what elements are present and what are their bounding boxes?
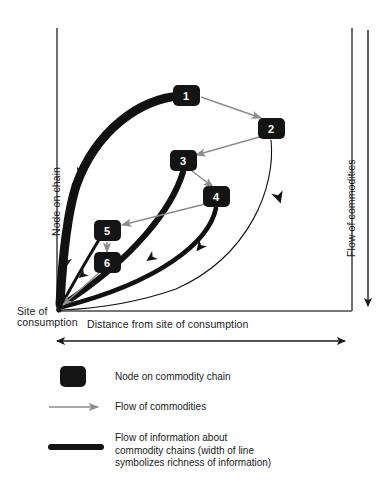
node-2-label: 2 [268,123,274,135]
node-3[interactable]: 3 [170,150,197,171]
flow-arrowhead-2 [271,190,286,205]
node-4[interactable]: 4 [203,186,230,207]
right-axis-label: Flow of commodities [345,159,357,257]
node-4-label: 4 [213,191,220,203]
legend-item-1-text: Flow of commodities [115,401,206,414]
legend-markers [48,366,104,450]
node-1[interactable]: 1 [173,85,200,106]
commodity-flow-group [63,97,263,305]
commodity-arrow-1-to-2 [201,97,261,118]
commodity-arrow-2-to-3 [196,136,263,155]
flow-arrowhead-3 [144,251,158,265]
origin-label-line2: consumption [17,316,78,328]
node-5[interactable]: 5 [94,220,121,241]
node-group: 1 2 3 4 5 6 [94,85,285,273]
node-3-label: 3 [180,155,186,167]
information-flow-group [60,96,272,310]
legend-thickline-swatch [48,444,104,450]
commodity-arrow-3-to-4 [192,171,213,187]
node-2[interactable]: 2 [258,118,285,139]
legend-item-0-text: Node on commodity chain [115,371,231,384]
node-1-label: 1 [183,90,189,102]
node-6-label: 6 [104,257,110,269]
node-6[interactable]: 6 [94,252,121,273]
x-axis-label: Distance from site of consumption [87,318,248,330]
diagram-root: 1 2 3 4 5 6 [0,0,391,486]
legend-node-swatch [60,366,86,387]
legend-item-2-text: Flow of information about commodity chai… [115,432,271,470]
y-axis-label: Node on chain [50,167,62,236]
node-5-label: 5 [104,225,110,237]
